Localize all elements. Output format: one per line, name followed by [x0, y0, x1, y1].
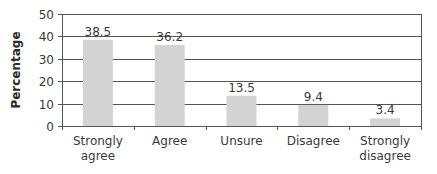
- bar: [155, 45, 185, 126]
- bar-chart: 0102030405038.5Stronglyagree36.2Agree13.…: [0, 0, 437, 174]
- y-tick-label: 40: [39, 30, 54, 44]
- x-tick-label: Strongly: [360, 134, 410, 148]
- x-tick-label: agree: [81, 149, 115, 163]
- bar: [370, 118, 400, 126]
- data-label: 13.5: [228, 81, 255, 95]
- y-tick-label: 50: [39, 8, 54, 22]
- y-tick-label: 0: [46, 120, 54, 134]
- y-tick-label: 10: [39, 98, 54, 112]
- x-tick-label: Unsure: [220, 134, 262, 148]
- y-tick-label: 30: [39, 53, 54, 67]
- data-label: 9.4: [304, 90, 323, 104]
- bar: [83, 40, 113, 126]
- y-tick-label: 20: [39, 75, 54, 89]
- data-label: 38.5: [85, 25, 112, 39]
- x-tick-label: disagree: [359, 149, 411, 163]
- x-tick-label: Agree: [152, 134, 187, 148]
- y-axis-title: Percentage: [9, 31, 23, 108]
- bar: [227, 96, 257, 126]
- data-label: 3.4: [376, 103, 395, 117]
- x-tick-label: Disagree: [287, 134, 340, 148]
- x-tick-label: Strongly: [73, 134, 123, 148]
- bar: [298, 105, 328, 126]
- data-label: 36.2: [156, 30, 183, 44]
